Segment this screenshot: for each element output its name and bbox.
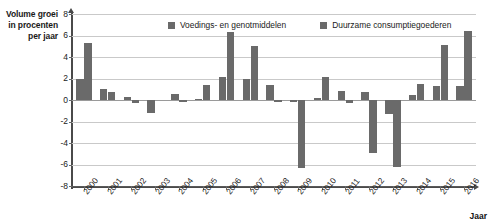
gridline	[72, 143, 476, 144]
bar	[251, 46, 258, 100]
gridline	[72, 57, 476, 58]
legend-swatch-icon	[168, 22, 175, 29]
y-axis-title: Volume groei in procenten per jaar	[0, 9, 58, 43]
bar	[456, 86, 463, 100]
y-tick-label: 6	[54, 31, 68, 40]
y-tick-label: -8	[54, 182, 68, 191]
gridline	[72, 79, 476, 80]
bar	[84, 43, 91, 100]
gridline	[72, 165, 476, 166]
bar	[298, 100, 305, 168]
bar	[100, 89, 107, 100]
legend-item[interactable]: Duurzame consumptiegoederen	[320, 20, 451, 30]
bar	[124, 97, 131, 100]
y-tick-label: 0	[54, 96, 68, 105]
bar	[322, 77, 329, 100]
bar	[417, 84, 424, 100]
bar	[441, 45, 448, 100]
legend-swatch-icon	[320, 22, 327, 29]
bar	[393, 100, 400, 167]
legend-label: Voedings- en genotmiddelen	[180, 20, 286, 30]
bar	[266, 85, 273, 100]
bar	[132, 100, 139, 103]
bar	[171, 94, 178, 100]
bar	[433, 86, 440, 100]
gridline	[72, 14, 476, 15]
x-axis-title: Jaar	[470, 211, 488, 221]
bar	[290, 100, 297, 102]
chart-legend: Voedings- en genotmiddelenDuurzame consu…	[168, 20, 451, 30]
y-tick-label: -6	[54, 160, 68, 169]
bar	[147, 100, 154, 113]
bar-chart: Volume groei in procenten per jaar 86420…	[0, 0, 491, 223]
bar	[369, 100, 376, 153]
bar	[361, 92, 368, 100]
bar	[314, 98, 321, 100]
y-tick-label: 2	[54, 74, 68, 83]
bar	[195, 99, 202, 100]
bar	[203, 85, 210, 100]
bar	[338, 91, 345, 100]
bar	[219, 77, 226, 100]
y-tick-label: -4	[54, 139, 68, 148]
legend-label: Duurzame consumptiegoederen	[332, 20, 451, 30]
y-axis-title-line-2: in procenten	[0, 20, 58, 31]
y-tick-label: -2	[54, 117, 68, 126]
y-tick-label: 8	[54, 10, 68, 19]
bar	[179, 100, 186, 102]
y-axis-title-line-1: Volume groei	[0, 9, 58, 20]
plot-area	[72, 14, 476, 186]
bar	[464, 31, 471, 100]
y-tick-label: 4	[54, 53, 68, 62]
bar	[409, 95, 416, 100]
bar	[243, 79, 250, 101]
gridline	[72, 36, 476, 37]
bar	[385, 100, 392, 114]
bar	[108, 92, 115, 100]
gridline	[72, 122, 476, 123]
bar	[227, 32, 234, 100]
bar	[274, 100, 281, 102]
bar	[76, 79, 83, 101]
legend-item[interactable]: Voedings- en genotmiddelen	[168, 20, 286, 30]
y-axis-title-line-3: per jaar	[0, 31, 58, 42]
bar	[346, 100, 353, 103]
